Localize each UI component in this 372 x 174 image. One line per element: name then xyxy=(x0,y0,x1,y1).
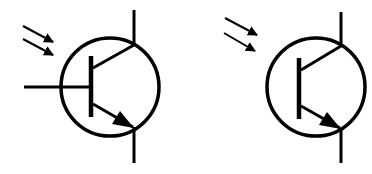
emitter-arrow-icon xyxy=(112,111,134,128)
collector-line xyxy=(93,45,134,68)
light-arrows-icon xyxy=(224,18,257,51)
light-arrows-icon xyxy=(23,26,53,55)
phototransistor-with-base xyxy=(23,10,159,163)
phototransistor-without-base xyxy=(224,12,365,163)
schematic-canvas xyxy=(0,0,372,174)
collector-line xyxy=(301,46,341,70)
emitter-arrow-icon xyxy=(319,112,341,129)
transistor-envelope xyxy=(267,38,365,136)
